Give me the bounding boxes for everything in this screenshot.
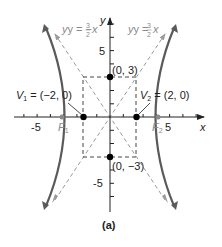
labels: yy = − 3 2 x yy = 3 2 x y x 5 -5 -5 5 V1… (16, 14, 206, 231)
x-tick-5: 5 (165, 121, 171, 133)
focus-f1-point (60, 115, 65, 120)
y-tick-5: 5 (99, 45, 105, 57)
point-0-neg3-label: (0, −3) (112, 160, 144, 172)
figure-caption: (a) (102, 219, 116, 231)
asymptote-neg-x: x (91, 23, 98, 35)
asymptote-pos-label: yy = (127, 23, 148, 35)
x-tick-neg5: -5 (31, 121, 41, 133)
v1-label: V1 = (−2, 0) (16, 89, 72, 102)
asymptote-neg-num: 3 (86, 22, 90, 29)
y-axis-label: y (99, 14, 107, 26)
y-tick-neg5: -5 (93, 177, 103, 189)
v1-leader-line (68, 103, 82, 115)
asymptote-pos-x: x (152, 23, 159, 35)
point-0-3-label: (0, 3) (112, 64, 138, 76)
f1-label: F1 (58, 121, 69, 134)
asymptote-pos-den: 2 (147, 31, 151, 38)
f2-label: F2 (152, 121, 163, 134)
hyperbola-diagram: yy = − 3 2 x yy = 3 2 x y x 5 -5 -5 5 V1… (0, 0, 222, 247)
asymptote-pos-num: 3 (147, 22, 151, 29)
v2-label: V2 = (2, 0) (140, 89, 189, 102)
v2-leader-line (138, 103, 150, 115)
focus-f2-point (156, 115, 161, 120)
asymptote-neg-den: 2 (86, 31, 90, 38)
x-axis-label: x (199, 121, 206, 133)
